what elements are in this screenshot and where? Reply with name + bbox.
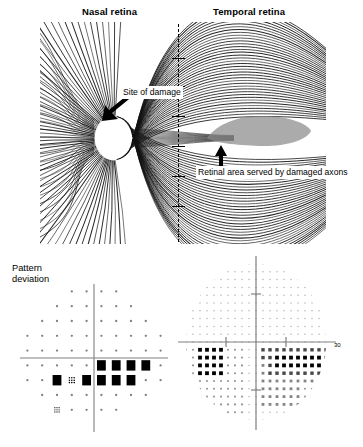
pattern-deviation-plot [14,278,174,438]
pattern-deviation-symbol [71,409,73,411]
pattern-deviation-symbol [26,379,28,381]
pattern-deviation-panel: Pattern deviation [0,250,180,447]
pattern-deviation-symbol [159,364,161,366]
midline-tick [172,176,185,177]
vertical-midline [178,24,179,242]
pattern-deviation-symbol [26,364,28,366]
pattern-deviation-symbol [145,394,147,396]
pattern-deviation-symbol [145,349,147,351]
label-retinal-area: Retinal area served by damaged axons [196,166,350,179]
pattern-deviation-symbol [41,364,43,366]
optic-disc [96,117,132,159]
axis-label-30: 30 [334,342,341,348]
pattern-deviation-symbol [85,290,87,292]
pattern-deviation-symbol [100,305,102,307]
pattern-deviation-symbol [100,320,102,322]
pattern-deviation-symbol [71,305,73,307]
pattern-deviation-symbol [41,379,43,381]
pattern-deviation-symbol [130,335,132,337]
pattern-deviation-symbol [41,335,43,337]
pattern-deviation-symbol [130,394,132,396]
pattern-deviation-symbol [71,364,73,366]
greyscale-field-panel: 30 [178,250,363,447]
pattern-deviation-symbol [41,320,43,322]
pattern-deviation-symbol [159,379,161,381]
pattern-deviation-symbol [71,335,73,337]
pattern-deviation-symbol [130,305,132,307]
pattern-deviation-symbol [100,409,102,411]
pattern-deviation-symbol [26,335,28,337]
pattern-deviation-symbol [100,335,102,337]
pattern-deviation-symbol [100,290,102,292]
pattern-deviation-symbol [56,349,58,351]
pattern-deviation-symbol [82,375,91,385]
midline-tick [172,58,185,59]
pattern-deviation-symbol [69,377,75,383]
pattern-deviation-symbol [115,290,117,292]
pattern-deviation-symbol [71,349,73,351]
pattern-deviation-symbol [97,375,106,385]
pattern-deviation-symbol [71,290,73,292]
midline-tick [172,116,185,117]
pattern-deviation-symbol [115,320,117,322]
pattern-deviation-symbol [112,360,121,370]
pattern-deviation-symbol [56,394,58,396]
retinal-nerve-fibre-panel: Nasal retina Temporal retina Site of dam… [0,0,363,250]
pattern-deviation-symbol [115,409,117,411]
pattern-deviation-symbol [97,360,106,370]
pattern-deviation-symbol [127,360,136,370]
pattern-deviation-symbol [115,305,117,307]
pattern-deviation-symbol [100,394,102,396]
header-nasal-retina: Nasal retina [82,6,137,17]
pattern-deviation-symbol [100,349,102,351]
pattern-deviation-symbol [85,335,87,337]
pattern-deviation-symbol [112,375,121,385]
pattern-deviation-symbol [141,360,150,370]
pattern-deviation-symbol [56,305,58,307]
pattern-deviation-symbol [41,394,43,396]
pattern-deviation-symbol [145,320,147,322]
pattern-deviation-symbol [130,320,132,322]
pattern-deviation-symbol [145,335,147,337]
pattern-deviation-symbol [127,375,136,385]
greyscale-visual-field-plot [178,254,344,434]
pattern-deviation-symbol [159,349,161,351]
pattern-deviation-symbol [85,349,87,351]
pattern-deviation-symbol [56,364,58,366]
pattern-deviation-symbol [115,335,117,337]
pattern-deviation-symbol [115,349,117,351]
pattern-deviation-symbol [85,409,87,411]
header-temporal-retina: Temporal retina [213,6,285,17]
pattern-deviation-symbol [26,349,28,351]
pattern-deviation-symbol [85,394,87,396]
midline-tick [172,206,185,207]
pattern-deviation-symbol [85,364,87,366]
pattern-deviation-symbol [56,335,58,337]
pattern-deviation-symbol [115,394,117,396]
label-site-of-damage: Site of damage [121,86,183,99]
pattern-deviation-symbol [71,394,73,396]
pattern-deviation-symbol [159,335,161,337]
pattern-deviation-symbol [56,320,58,322]
pattern-deviation-symbol [41,349,43,351]
pattern-deviation-symbol [85,305,87,307]
nerve-fibre-layer-diagram [40,22,326,244]
midline-tick [172,146,185,147]
pattern-deviation-symbol [54,407,59,412]
pattern-deviation-symbol [53,375,62,385]
pattern-deviation-symbol [71,320,73,322]
pattern-deviation-symbol [145,379,147,381]
pattern-deviation-symbol [85,320,87,322]
pattern-deviation-symbol [130,349,132,351]
